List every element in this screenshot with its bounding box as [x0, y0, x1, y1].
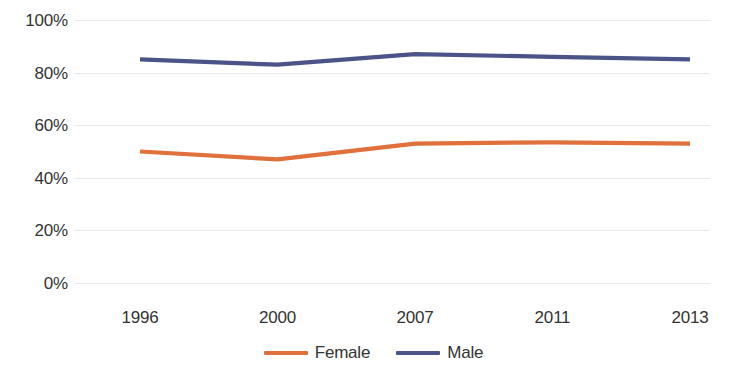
legend-item-female[interactable]: Female	[264, 344, 371, 362]
gridline	[75, 73, 710, 74]
legend-swatch-icon	[396, 351, 440, 355]
x-tick-label: 2011	[535, 308, 571, 328]
y-tick-label: 0%	[0, 275, 68, 292]
legend-item-male[interactable]: Male	[396, 344, 483, 362]
series-layer	[75, 20, 710, 283]
y-axis: 0%20%40%60%80%100%	[0, 0, 68, 303]
y-tick-label: 60%	[0, 117, 68, 134]
series-line-male	[140, 54, 690, 65]
y-tick-label: 20%	[0, 222, 68, 239]
line-chart: 0%20%40%60%80%100% 19962000200720112013 …	[0, 0, 747, 375]
gridline	[75, 178, 710, 179]
x-axis: 19962000200720112013	[75, 308, 710, 332]
x-tick-label: 2000	[259, 308, 296, 328]
x-tick-label: 2007	[396, 308, 433, 328]
legend-label: Male	[447, 344, 483, 362]
x-tick-label: 2013	[671, 308, 708, 328]
gridline	[75, 283, 710, 284]
legend-label: Female	[315, 344, 371, 362]
gridline	[75, 20, 710, 21]
gridline	[75, 230, 710, 231]
gridline	[75, 125, 710, 126]
legend-swatch-icon	[264, 351, 308, 355]
y-tick-label: 100%	[0, 12, 68, 29]
series-line-female	[140, 142, 690, 159]
chart-legend: FemaleMale	[0, 344, 747, 362]
y-tick-label: 80%	[0, 64, 68, 81]
x-tick-label: 1996	[121, 308, 158, 328]
y-tick-label: 40%	[0, 169, 68, 186]
plot-area	[75, 20, 710, 283]
